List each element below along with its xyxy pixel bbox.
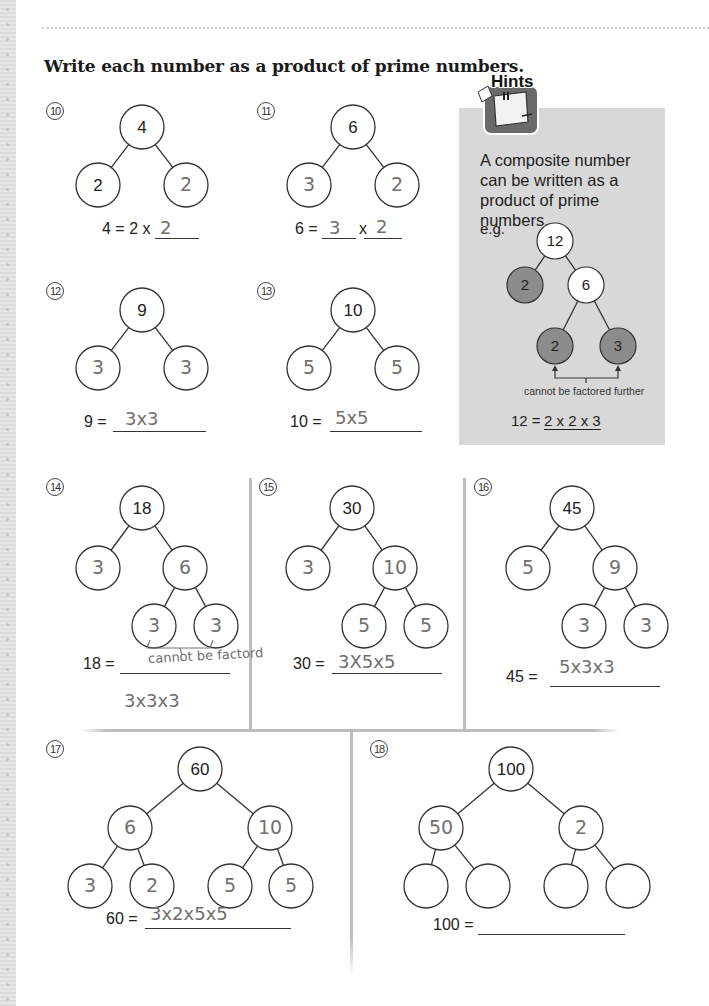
equation-label: 100 = bbox=[433, 916, 473, 934]
svg-text:5: 5 bbox=[522, 556, 534, 578]
svg-text:5: 5 bbox=[420, 614, 432, 636]
answer-blank-line[interactable] bbox=[364, 238, 402, 239]
tree-branch bbox=[111, 526, 129, 551]
equation-label: 9 = bbox=[84, 413, 107, 431]
tree-branch bbox=[541, 526, 559, 551]
handwritten-answer[interactable]: 3X5x5 bbox=[338, 651, 395, 672]
svg-text:3: 3 bbox=[180, 356, 192, 378]
tree-right-node[interactable]: 9 bbox=[593, 546, 637, 590]
tree-leaf-node[interactable]: 5 bbox=[269, 864, 313, 908]
tree-leaf-node[interactable]: 3 bbox=[194, 604, 238, 648]
tree-left-node[interactable]: 3 bbox=[286, 546, 330, 590]
tree-leaf-node[interactable]: 3 bbox=[624, 604, 668, 648]
tree-left-node[interactable]: 6 bbox=[108, 806, 152, 850]
tree-leaf-node[interactable]: 5 bbox=[342, 604, 386, 648]
answer-blank-line[interactable] bbox=[113, 431, 206, 432]
tree-left-node[interactable]: 3 bbox=[287, 163, 331, 207]
equation-label: 60 = bbox=[106, 910, 138, 928]
problem-number-10: 10 bbox=[46, 102, 64, 120]
tree-branch bbox=[528, 783, 564, 814]
tree-left-node[interactable]: 3 bbox=[76, 346, 120, 390]
tree-leaf-node[interactable] bbox=[466, 864, 510, 908]
handwritten-answer[interactable]: 5x3x3 bbox=[559, 656, 615, 677]
answer-blank-line[interactable] bbox=[478, 934, 625, 935]
svg-text:50: 50 bbox=[429, 816, 453, 838]
tree-leaf-node[interactable] bbox=[544, 864, 588, 908]
tree-branch bbox=[432, 849, 436, 864]
tree-left-node[interactable]: 50 bbox=[419, 806, 463, 850]
hint-tree-root: 12 bbox=[537, 223, 573, 259]
tree-branch bbox=[594, 587, 604, 606]
tree-leaf-node[interactable]: 3 bbox=[132, 604, 176, 648]
equation-label: 45 = bbox=[506, 668, 538, 686]
svg-text:3: 3 bbox=[302, 556, 314, 578]
tree-branch bbox=[102, 846, 117, 868]
answer-blank-line[interactable] bbox=[322, 238, 356, 239]
tree-right-node[interactable]: 2 bbox=[375, 163, 419, 207]
equation-label: 18 = bbox=[83, 655, 115, 673]
answer-blank-line[interactable] bbox=[332, 673, 442, 674]
handwritten-answer[interactable]: 3x3x3 bbox=[124, 690, 180, 711]
tree-left-node[interactable]: 5 bbox=[506, 546, 550, 590]
tree-branch bbox=[594, 301, 609, 330]
handwritten-answer[interactable]: 3x3 bbox=[125, 408, 159, 429]
svg-text:6: 6 bbox=[124, 816, 136, 838]
tree-left-node[interactable]: 5 bbox=[287, 346, 331, 390]
svg-text:3: 3 bbox=[84, 874, 96, 896]
handwritten-answer[interactable]: 5x5 bbox=[335, 407, 369, 428]
tree-root-node: 30 bbox=[330, 486, 374, 530]
svg-text:3: 3 bbox=[303, 173, 315, 195]
svg-text:60: 60 bbox=[191, 760, 210, 779]
tree-right-node[interactable]: 5 bbox=[375, 346, 419, 390]
tree-right-node[interactable]: 3 bbox=[164, 346, 208, 390]
tree-right-node[interactable]: 2 bbox=[164, 163, 208, 207]
tree-leaf-node[interactable]: 2 bbox=[130, 864, 174, 908]
svg-text:10: 10 bbox=[344, 301, 363, 320]
tree-branch bbox=[155, 526, 172, 550]
handwritten-answer[interactable]: 3x2x5x5 bbox=[150, 903, 228, 924]
tree-branch bbox=[155, 328, 172, 351]
tree-leaf-node[interactable]: 5 bbox=[404, 604, 448, 648]
arrow-up-icon bbox=[615, 365, 621, 371]
tree-branch bbox=[138, 849, 144, 866]
answer-blank-line[interactable] bbox=[550, 686, 660, 687]
tree-right-node[interactable]: 6 bbox=[163, 546, 207, 590]
tree-branch bbox=[217, 783, 253, 814]
tree-leaf-node[interactable] bbox=[606, 864, 650, 908]
svg-text:10: 10 bbox=[258, 816, 282, 838]
handwritten-answer[interactable]: 2 bbox=[376, 216, 387, 237]
svg-text:5: 5 bbox=[358, 614, 370, 636]
tree-leaf-node[interactable]: 5 bbox=[208, 864, 252, 908]
svg-text:2: 2 bbox=[391, 173, 403, 195]
answer-blank-line[interactable] bbox=[155, 238, 199, 239]
tree-right-node[interactable]: 10 bbox=[248, 806, 292, 850]
tree-branch bbox=[455, 845, 474, 869]
tree-branch bbox=[366, 145, 383, 168]
tree-left-node[interactable]: 3 bbox=[76, 546, 120, 590]
answer-blank-line[interactable] bbox=[145, 928, 291, 929]
tree-branch bbox=[321, 526, 339, 551]
handwritten-answer[interactable]: 3 bbox=[329, 217, 340, 238]
answer-blank-line[interactable] bbox=[120, 673, 230, 674]
svg-text:3: 3 bbox=[210, 614, 222, 636]
tree-leaf-node[interactable] bbox=[404, 864, 448, 908]
tree-branch bbox=[322, 145, 339, 168]
svg-text:12: 12 bbox=[547, 232, 564, 249]
hint-tree-prime-node: 2 bbox=[507, 267, 543, 303]
tree-branch bbox=[458, 783, 494, 814]
tree-branch bbox=[111, 328, 128, 351]
tree-leaf-node[interactable]: 3 bbox=[562, 604, 606, 648]
svg-text:18: 18 bbox=[133, 499, 152, 518]
svg-text:4: 4 bbox=[137, 118, 146, 137]
tree-branch bbox=[405, 587, 415, 606]
tree-right-node[interactable]: 2 bbox=[559, 806, 603, 850]
tree-branch bbox=[374, 587, 384, 606]
tree-leaf-node[interactable]: 3 bbox=[68, 864, 112, 908]
equation-label: 4 = 2 x bbox=[102, 220, 150, 238]
svg-text:6: 6 bbox=[348, 118, 357, 137]
tree-right-node[interactable]: 10 bbox=[373, 546, 417, 590]
tree-root-node: 4 bbox=[120, 105, 164, 149]
svg-text:5: 5 bbox=[303, 356, 315, 378]
answer-blank-line[interactable] bbox=[330, 431, 422, 432]
handwritten-answer[interactable]: 2 bbox=[160, 217, 171, 238]
